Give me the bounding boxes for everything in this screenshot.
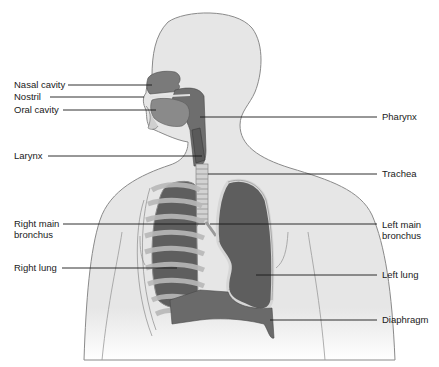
label-right-lung: Right lung [14,262,57,273]
label-pharynx: Pharynx [382,111,417,122]
label-nostril: Nostril [14,91,41,102]
label-left-main-bronchus-line1: Left main [382,219,421,230]
leader-lines [0,0,439,367]
label-diaphragm: Diaphragm [382,314,428,325]
label-right-main-bronchus-line2: bronchus [14,229,53,240]
label-larynx: Larynx [14,150,43,161]
label-left-main-bronchus-line2: bronchus [382,230,421,241]
label-nasal-cavity: Nasal cavity [14,79,65,90]
label-trachea: Trachea [382,168,417,179]
respiratory-diagram: Nasal cavity Nostril Oral cavity Larynx … [0,0,439,367]
label-right-main-bronchus-line1: Right main [14,218,59,229]
label-oral-cavity: Oral cavity [14,104,59,115]
label-left-lung: Left lung [382,269,418,280]
